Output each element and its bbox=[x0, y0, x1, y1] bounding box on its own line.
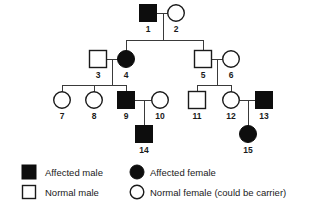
individual-4-affected-female-symbol[interactable] bbox=[118, 51, 135, 68]
legend: Affected male Normal male Affected femal… bbox=[22, 165, 286, 199]
legend-normal-female-label: Normal female (could be carrier) bbox=[150, 187, 286, 198]
legend-normal-male-label: Normal male bbox=[45, 187, 99, 198]
individual-6-normal-female-symbol[interactable] bbox=[223, 51, 240, 68]
legend-affected-male-label: Affected male bbox=[45, 167, 103, 178]
legend-normal-female-icon bbox=[130, 185, 144, 199]
individual-14-affected-male-symbol[interactable] bbox=[136, 126, 153, 143]
individual-13-label: 13 bbox=[259, 111, 269, 121]
individual-2-normal-female-symbol[interactable] bbox=[168, 5, 185, 22]
legend-affected-female-label: Affected female bbox=[150, 167, 216, 178]
individual-15-label: 15 bbox=[243, 145, 253, 155]
individual-8-label: 8 bbox=[92, 111, 97, 121]
individual-9-affected-male-symbol[interactable] bbox=[118, 92, 135, 109]
individual-13-affected-male-symbol[interactable] bbox=[256, 92, 273, 109]
legend-affected-male-icon bbox=[22, 165, 36, 179]
individual-10-normal-female-symbol[interactable] bbox=[152, 92, 169, 109]
individual-3-normal-male-symbol[interactable] bbox=[90, 51, 107, 68]
individual-1-label: 1 bbox=[146, 24, 151, 34]
pedigree-diagram: 1 2 3 4 5 6 7 8 9 10 11 bbox=[0, 0, 323, 210]
individual-5-normal-male-symbol[interactable] bbox=[195, 51, 212, 68]
generation-1: 1 2 bbox=[140, 5, 185, 35]
individual-11-normal-male-symbol[interactable] bbox=[189, 92, 206, 109]
individual-2-label: 2 bbox=[174, 24, 179, 34]
individual-10-label: 10 bbox=[155, 111, 165, 121]
pedigree-chart: 1 2 3 4 5 6 7 8 9 10 11 bbox=[0, 0, 323, 210]
individual-9-label: 9 bbox=[124, 111, 129, 121]
individual-15-affected-female-symbol[interactable] bbox=[240, 126, 257, 143]
individual-1-affected-male-symbol[interactable] bbox=[140, 5, 157, 22]
individual-7-label: 7 bbox=[60, 111, 65, 121]
individual-12-normal-female-symbol[interactable] bbox=[223, 92, 240, 109]
individual-12-label: 12 bbox=[226, 111, 236, 121]
generation-4: 14 15 bbox=[136, 126, 257, 156]
legend-affected-female-icon bbox=[130, 165, 144, 179]
individual-11-label: 11 bbox=[193, 111, 202, 121]
individual-14-label: 14 bbox=[139, 145, 149, 155]
individual-4-label: 4 bbox=[124, 70, 129, 80]
individual-3-label: 3 bbox=[96, 70, 101, 80]
individual-5-label: 5 bbox=[201, 70, 206, 80]
individual-6-label: 6 bbox=[229, 70, 234, 80]
legend-normal-male-icon bbox=[23, 186, 36, 199]
connector-lines bbox=[62, 13, 256, 126]
individual-7-normal-female-symbol[interactable] bbox=[54, 92, 71, 109]
individual-8-normal-female-symbol[interactable] bbox=[86, 92, 103, 109]
generation-3: 7 8 9 10 11 12 13 bbox=[54, 92, 273, 122]
